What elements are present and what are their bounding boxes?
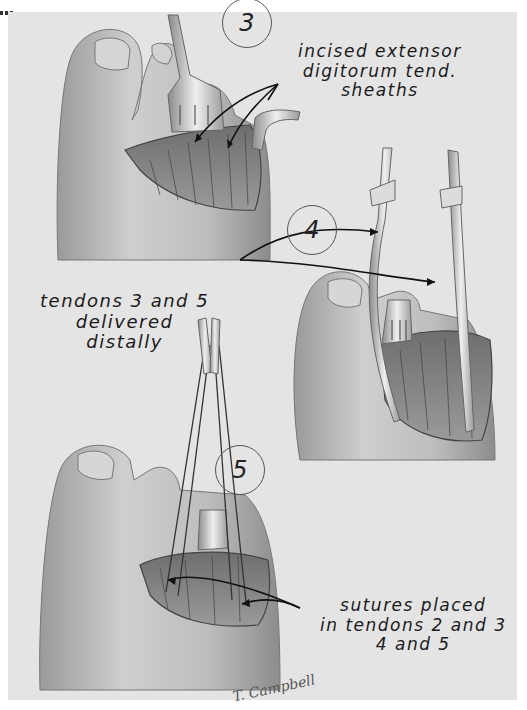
- foot-step-5: [40, 318, 300, 690]
- caption-step-3: incised extensor digitorum tend. sheaths: [298, 42, 462, 101]
- caption-step-4: tendons 3 and 5 delivered distally: [40, 291, 209, 353]
- step-number-5: 5: [215, 445, 265, 495]
- foot-step-3: [57, 15, 300, 260]
- step-number-4: 4: [287, 205, 337, 255]
- step-number-3: 3: [222, 0, 272, 48]
- caption-step-5: sutures placed in tendons 2 and 3 4 and …: [320, 596, 506, 655]
- foot-step-4: [240, 148, 495, 460]
